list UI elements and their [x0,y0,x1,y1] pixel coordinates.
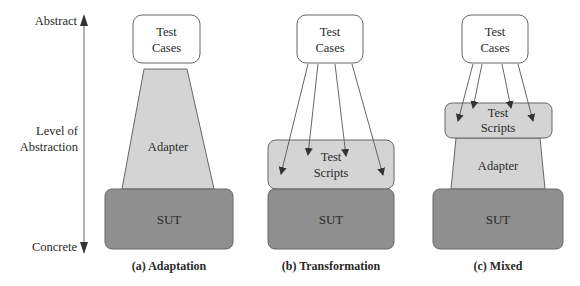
test-scripts-label-line2: Scripts [481,121,516,135]
test-cases-label-line2: Cases [315,41,344,55]
sut-label: SUT [486,212,511,227]
axis-bottom-label: Concrete [32,240,78,254]
axis-down-arrow-icon [80,242,88,254]
test-cases-label-line2: Cases [152,41,181,55]
test-cases-box [133,15,200,63]
panel-mixed: Test Cases Adapter Test Scripts SUT (c) … [433,15,563,273]
sut-label: SUT [157,212,182,227]
caption-adaptation: (a) Adaptation [132,259,207,273]
test-cases-box [462,15,528,63]
arrow-icon [502,64,511,108]
panel-adaptation: Test Cases Adapter SUT (a) Adaptation [105,15,233,273]
diagram-canvas: Abstract Level of Abstraction Concrete T… [0,0,580,286]
abstraction-axis: Abstract Level of Abstraction Concrete [20,14,88,254]
caption-mixed: (c) Mixed [474,259,523,273]
axis-top-label: Abstract [35,14,78,28]
test-cases-label-line1: Test [156,25,177,39]
arrow-icon [473,64,482,108]
sut-label: SUT [319,212,344,227]
test-cases-label-line1: Test [320,25,341,39]
test-cases-label-line2: Cases [480,41,509,55]
caption-transformation: (b) Transformation [282,259,381,273]
axis-middle-label-line2: Abstraction [20,140,79,154]
test-scripts-label-line2: Scripts [314,166,349,180]
adapter-label: Adapter [148,140,189,154]
test-scripts-label-line1: Test [321,150,342,164]
adapter-label: Adapter [478,159,519,173]
axis-up-arrow-icon [80,14,88,26]
panel-transformation: Test Cases Test Scripts SUT (b) Transfor… [268,15,394,273]
test-cases-label-line1: Test [485,25,506,39]
axis-middle-label-line1: Level of [36,124,79,138]
adapter-trapezoid [122,69,214,189]
test-cases-box [297,15,363,63]
test-scripts-label-line1: Test [488,106,509,120]
